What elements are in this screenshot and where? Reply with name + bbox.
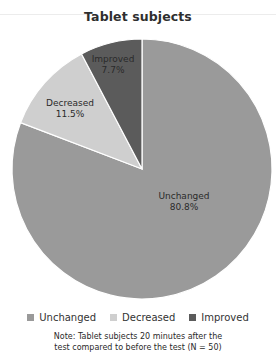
note-line-2: test compared to before the test (N = 50… [0,342,276,353]
slice-label-unchanged-pct: 80.8% [170,202,199,212]
legend-label-improved: Improved [201,312,248,323]
legend-item-decreased[interactable]: Decreased [110,312,175,323]
pie-slices [12,39,272,299]
note-line-1: Note: Tablet subjects 20 minutes after t… [0,331,276,342]
slice-label-improved-pct: 7.7% [102,65,125,75]
slice-label-decreased-pct: 11.5% [56,109,85,119]
legend-swatch-decreased [110,314,117,321]
legend-item-improved[interactable]: Improved [189,312,248,323]
legend: Unchanged Decreased Improved [0,312,276,323]
legend-label-unchanged: Unchanged [39,312,96,323]
legend-swatch-improved [189,314,196,321]
chart-note: Note: Tablet subjects 20 minutes after t… [0,331,276,353]
legend-swatch-unchanged [27,314,34,321]
pie-chart: Improved 7.7% Decreased 11.5% Unchanged … [0,0,276,357]
legend-label-decreased: Decreased [122,312,175,323]
slice-label-unchanged-name: Unchanged [158,191,209,201]
slice-label-improved-name: Improved [92,54,135,64]
slice-label-decreased-name: Decreased [46,98,94,108]
legend-item-unchanged[interactable]: Unchanged [27,312,96,323]
